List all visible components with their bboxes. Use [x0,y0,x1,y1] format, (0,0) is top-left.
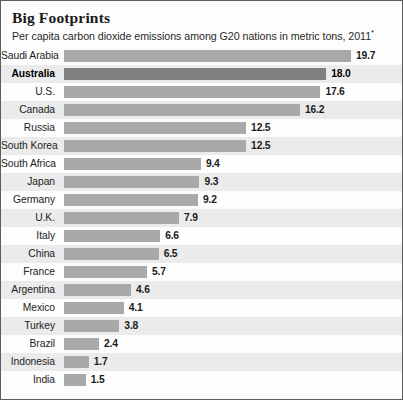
bar-track: 1.7 [64,353,402,371]
bar-category-label: Saudi Arabia [1,50,64,62]
bar-track: 9.3 [64,173,402,191]
bar-fill [64,284,131,296]
table-row: U.S.17.6 [1,83,402,101]
table-row: Germany9.2 [1,191,402,209]
bar-category-label: Germany [1,194,64,206]
bar-value-label: 7.9 [179,212,198,224]
bar-category-label: Japan [1,176,64,188]
table-row: Mexico4.1 [1,299,402,317]
bar-value-label: 19.7 [351,50,375,62]
bar-track: 12.5 [64,119,402,137]
bar-track: 7.9 [64,209,402,227]
bar-track: 17.6 [64,83,402,101]
bar-category-label: South Africa [1,158,64,170]
bar-category-label: Russia [1,122,64,134]
bar-category-label: France [1,266,64,278]
bar-fill [64,86,320,98]
table-row: Argentina4.6 [1,281,402,299]
chart-header: Big Footprints Per capita carbon dioxide… [1,1,402,43]
bar-value-label: 9.3 [199,176,218,188]
bar-fill [64,302,124,314]
bar-track: 19.7 [64,47,402,65]
bar-value-label: 17.6 [320,86,344,98]
bar-fill [64,230,160,242]
bar-fill [64,122,246,134]
bar-fill [64,140,246,152]
bar-category-label: Australia [1,68,64,80]
chart-subtitle-text: Per capita carbon dioxide emissions amon… [12,30,371,42]
bar-category-label: U.K. [1,212,64,224]
bar-track: 18.0 [64,65,402,83]
bar-value-label: 12.5 [246,122,270,134]
table-row: China6.5 [1,245,402,263]
table-row: Brazil2.4 [1,335,402,353]
bar-fill [64,248,159,260]
bar-value-label: 9.2 [198,194,217,206]
bar-track: 4.1 [64,299,402,317]
table-row: South Africa9.4 [1,155,402,173]
bar-category-label: China [1,248,64,260]
bar-track: 6.5 [64,245,402,263]
bar-value-label: 3.8 [119,320,138,332]
bar-fill [64,356,89,368]
chart-subtitle: Per capita carbon dioxide emissions amon… [12,30,402,43]
table-row: U.K.7.9 [1,209,402,227]
bar-value-label: 5.7 [147,266,166,278]
bar-track: 12.5 [64,137,402,155]
bar-value-label: 4.6 [131,284,150,296]
bar-fill [64,374,86,386]
bar-chart-plot: Saudi Arabia19.7Australia18.0U.S.17.6Can… [1,47,402,389]
bar-fill [64,320,119,332]
table-row: South Korea12.5 [1,137,402,155]
bar-value-label: 16.2 [300,104,324,116]
bar-value-label: 6.6 [160,230,179,242]
bar-fill [64,212,179,224]
table-row: Canada16.2 [1,101,402,119]
bar-fill [64,50,351,62]
table-row: Saudi Arabia19.7 [1,47,402,65]
bar-track: 3.8 [64,317,402,335]
bar-value-label: 2.4 [99,338,118,350]
bar-fill [64,158,201,170]
bar-fill [64,266,147,278]
bar-track: 1.5 [64,371,402,389]
table-row: Australia18.0 [1,65,402,83]
bar-category-label: Indonesia [1,356,64,368]
bar-category-label: India [1,374,64,386]
bar-track: 16.2 [64,101,402,119]
table-row: Russia12.5 [1,119,402,137]
bar-category-label: Canada [1,104,64,116]
bar-fill [64,194,198,206]
bar-fill [64,68,326,80]
footnote-marker-icon: * [371,28,374,37]
bar-value-label: 1.7 [89,356,108,368]
table-row: France5.7 [1,263,402,281]
bar-fill [64,176,199,188]
table-row: India1.5 [1,371,402,389]
table-row: Japan9.3 [1,173,402,191]
bar-category-label: Mexico [1,302,64,314]
bar-value-label: 1.5 [86,374,105,386]
page-title: Big Footprints [12,10,402,26]
bar-track: 9.2 [64,191,402,209]
bar-track: 4.6 [64,281,402,299]
bar-category-label: Brazil [1,338,64,350]
bar-category-label: Italy [1,230,64,242]
table-row: Turkey3.8 [1,317,402,335]
bar-category-label: U.S. [1,86,64,98]
bar-track: 9.4 [64,155,402,173]
table-row: Indonesia1.7 [1,353,402,371]
bar-fill [64,338,99,350]
bar-category-label: Argentina [1,284,64,296]
bar-value-label: 9.4 [201,158,220,170]
bar-value-label: 4.1 [124,302,143,314]
bar-fill [64,104,300,116]
bar-category-label: Turkey [1,320,64,332]
table-row: Italy6.6 [1,227,402,245]
bar-track: 6.6 [64,227,402,245]
bar-category-label: South Korea [1,140,64,152]
bar-value-label: 18.0 [326,68,350,80]
bar-value-label: 6.5 [159,248,178,260]
bar-value-label: 12.5 [246,140,270,152]
chart-figure: Big Footprints Per capita carbon dioxide… [0,0,403,400]
